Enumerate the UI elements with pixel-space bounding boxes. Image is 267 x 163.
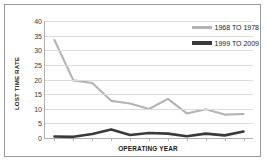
y-tick-label: 0 bbox=[25, 135, 42, 142]
y-tick-label: 25 bbox=[25, 61, 42, 68]
y-tick-label: 35 bbox=[25, 32, 42, 39]
legend-label: 1968 TO 1978 bbox=[214, 24, 259, 31]
y-tick-label: 20 bbox=[25, 76, 42, 83]
gridline bbox=[45, 94, 253, 95]
x-tick-mark bbox=[187, 138, 188, 141]
x-tick-mark bbox=[149, 138, 150, 141]
y-tick-label: 40 bbox=[25, 18, 42, 25]
gridline bbox=[45, 123, 253, 124]
x-tick-mark bbox=[168, 138, 169, 141]
chart-container: LOST TIME RATE 4035302520151050 OPERATIN… bbox=[4, 4, 261, 157]
x-tick-mark bbox=[54, 138, 55, 141]
chart-legend: 1968 TO 19781999 TO 2009 bbox=[155, 19, 259, 51]
x-tick-mark bbox=[225, 138, 226, 141]
x-tick-mark bbox=[73, 138, 74, 141]
x-tick-mark bbox=[206, 138, 207, 141]
legend-swatch-icon bbox=[192, 26, 212, 29]
x-tick-mark bbox=[92, 138, 93, 141]
legend-item-1[interactable]: 1968 TO 1978 bbox=[155, 19, 259, 35]
y-axis-tick-labels: 4035302520151050 bbox=[25, 17, 42, 143]
y-tick-label: 15 bbox=[25, 91, 42, 98]
y-axis-title-text: LOST TIME RATE bbox=[14, 56, 21, 109]
series-line-2 bbox=[54, 130, 243, 137]
y-axis-title: LOST TIME RATE bbox=[11, 33, 23, 133]
y-tick-label: 10 bbox=[25, 105, 42, 112]
x-tick-mark bbox=[244, 138, 245, 141]
x-tick-mark bbox=[111, 138, 112, 141]
gridline bbox=[45, 109, 253, 110]
x-axis-title: OPERATING YEAR bbox=[44, 145, 252, 152]
y-tick-label: 30 bbox=[25, 47, 42, 54]
legend-swatch-icon bbox=[192, 41, 212, 45]
legend-label: 1999 TO 2009 bbox=[214, 40, 259, 47]
legend-item-2[interactable]: 1999 TO 2009 bbox=[155, 35, 259, 51]
x-tick-mark bbox=[130, 138, 131, 141]
gridline bbox=[45, 65, 253, 66]
gridline bbox=[45, 80, 253, 81]
y-tick-label: 5 bbox=[25, 120, 42, 127]
